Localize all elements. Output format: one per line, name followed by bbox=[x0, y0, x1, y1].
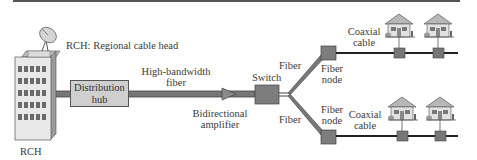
fiber-node-lower bbox=[321, 130, 336, 144]
fiber-upper-label: Fiber bbox=[279, 60, 301, 71]
coax-upper-line1: Coaxial bbox=[346, 26, 382, 37]
hub-label-line1: Distribution bbox=[71, 82, 128, 94]
coax-lower-line2: cable bbox=[347, 120, 383, 131]
amplifier-icon bbox=[222, 88, 236, 100]
fiber-node-upper-line2: node bbox=[320, 74, 344, 85]
hub-label-line2: hub bbox=[71, 94, 128, 106]
taps-upper bbox=[394, 37, 444, 58]
coax-upper-label: Coaxial cable bbox=[346, 26, 382, 48]
house-icon bbox=[424, 14, 454, 38]
house-icon bbox=[388, 97, 418, 121]
trunk-label-line1: High-bandwidth bbox=[136, 66, 216, 77]
legend-rch: RCH: Regional cable head bbox=[66, 40, 178, 51]
house-icon bbox=[426, 97, 456, 121]
amplifier-label: Bidirectional amplifier bbox=[192, 108, 248, 130]
trunk-label-line2: fiber bbox=[136, 77, 216, 88]
taps-lower bbox=[397, 120, 446, 141]
fiber-lower-label: Fiber bbox=[279, 114, 301, 125]
coax-lower-label: Coaxial cable bbox=[347, 109, 383, 131]
rch-label: RCH bbox=[20, 146, 42, 157]
rch-building-icon bbox=[15, 51, 60, 140]
fiber-node-upper-line1: Fiber bbox=[320, 63, 344, 74]
switch-label: Switch bbox=[252, 72, 281, 83]
fiber-node-lower-line2: node bbox=[320, 115, 344, 126]
amplifier-label-line1: Bidirectional bbox=[192, 108, 248, 119]
coax-lower-line1: Coaxial bbox=[347, 109, 383, 120]
fiber-node-lower-label: Fiber node bbox=[320, 104, 344, 126]
house-icon bbox=[385, 14, 415, 38]
satellite-dish-icon bbox=[37, 24, 60, 51]
distribution-hub-box: Distribution hub bbox=[70, 80, 129, 107]
coax-upper-line2: cable bbox=[346, 37, 382, 48]
switch-box bbox=[255, 85, 279, 104]
fiber-node-upper-label: Fiber node bbox=[320, 63, 344, 85]
fiber-node-lower-line1: Fiber bbox=[320, 104, 344, 115]
amplifier-label-line2: amplifier bbox=[192, 119, 248, 130]
trunk-label: High-bandwidth fiber bbox=[136, 66, 216, 88]
fiber-node-upper bbox=[321, 46, 336, 60]
